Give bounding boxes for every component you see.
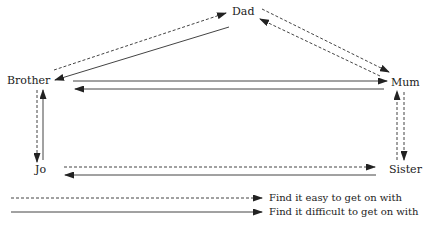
edge-dad-to-mum xyxy=(262,9,389,72)
edge-brother-to-dad xyxy=(54,13,226,70)
node-brother: Brother xyxy=(7,75,50,87)
node-mum: Mum xyxy=(391,77,420,89)
node-dad: Dad xyxy=(232,6,254,18)
edge-mum-to-dad xyxy=(260,19,380,76)
legend-difficult-label: Find it difficult to get on with xyxy=(269,206,418,218)
node-sister: Sister xyxy=(389,164,422,176)
edge-dad-to-brother xyxy=(55,27,229,80)
legend-easy-label: Find it easy to get on with xyxy=(269,192,402,204)
node-jo: Jo xyxy=(35,164,46,176)
